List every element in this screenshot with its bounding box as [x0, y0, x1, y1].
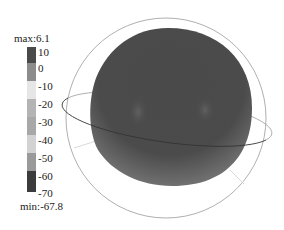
sphere-plot: [0, 0, 284, 230]
radiation-pattern-body: [90, 28, 252, 186]
